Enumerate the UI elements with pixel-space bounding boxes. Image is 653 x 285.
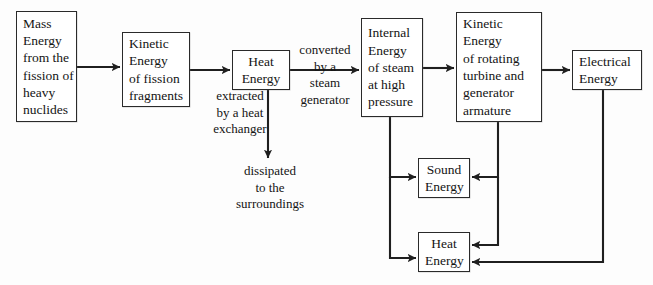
node-kinetic-energy-fission-fragments: Kinetic Energy of fission fragments (122, 32, 190, 107)
edge-kinetic-turbine-to-heat-bottom (472, 177, 498, 245)
edge-internal-to-sound (390, 117, 416, 177)
label-line: by a heat (192, 105, 288, 122)
label-line: dissipated (208, 163, 332, 180)
node-line: Kinetic (129, 35, 183, 52)
node-line: Energy (463, 32, 535, 49)
edge-kinetic-turbine-to-sound (472, 122, 498, 177)
node-sound-energy: Sound Energy (418, 158, 470, 198)
node-line: from the (23, 49, 70, 66)
node-line: Internal (368, 24, 416, 41)
node-line: Energy (368, 42, 416, 59)
node-line: at high (368, 76, 416, 93)
node-line: Energy (23, 32, 70, 49)
node-internal-energy-steam: Internal Energy of steam at high pressur… (361, 18, 423, 117)
node-heat-energy-bottom: Heat Energy (418, 232, 470, 272)
node-line: fragments (129, 87, 183, 104)
node-line: Kinetic (463, 15, 535, 32)
node-line: Energy (239, 70, 283, 87)
node-electrical-energy: Electrical Energy (572, 50, 642, 90)
node-line: pressure (368, 93, 416, 110)
label-line: extracted (192, 88, 288, 105)
label-line: generator (286, 92, 364, 109)
label-line: steam (286, 75, 364, 92)
node-mass-energy: Mass Energy from the fission of heavy nu… (16, 11, 77, 122)
node-line: Heat (239, 53, 283, 70)
node-line: Energy (129, 52, 183, 69)
node-line: Electrical (579, 53, 635, 70)
node-line: Energy (425, 178, 463, 195)
node-line: Energy (425, 252, 463, 269)
label-line: converted (286, 42, 364, 59)
node-line: Mass (23, 15, 70, 32)
node-line: of fission (129, 70, 183, 87)
label-line: by a (286, 59, 364, 76)
label-converted-by-steam-generator: converted by a steam generator (286, 42, 364, 108)
edge-internal-to-heat-bottom (390, 177, 416, 258)
label-line: exchanger (192, 121, 288, 138)
node-line: heavy (23, 84, 70, 101)
node-line: nuclides (23, 101, 70, 118)
node-line: Energy (579, 70, 635, 87)
energy-flow-diagram: Mass Energy from the fission of heavy nu… (0, 0, 653, 285)
node-line: turbine and (463, 67, 535, 84)
node-heat-energy-top: Heat Energy (232, 50, 290, 90)
node-line: fission of (23, 67, 70, 84)
label-extracted-by-heat-exchanger: extracted by a heat exchanger (192, 88, 288, 138)
label-line: surroundings (208, 196, 332, 213)
node-line: armature (463, 102, 535, 119)
label-dissipated-to-surroundings: dissipated to the surroundings (208, 163, 332, 213)
node-line: of rotating (463, 50, 535, 67)
node-line: of steam (368, 59, 416, 76)
node-kinetic-energy-turbine-generator: Kinetic Energy of rotating turbine and g… (456, 12, 542, 122)
node-line: Heat (425, 235, 463, 252)
label-line: to the (208, 180, 332, 197)
node-line: Sound (425, 161, 463, 178)
node-line: generator (463, 84, 535, 101)
